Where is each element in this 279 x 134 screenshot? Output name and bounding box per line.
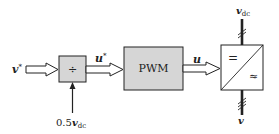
signal-arrow-u-star xyxy=(86,63,123,76)
vdc-bus-line xyxy=(238,19,246,45)
label-half-vdc: 0.5vdc xyxy=(56,118,86,130)
converter-dc-symbol: = xyxy=(228,52,238,64)
label-vdc: vdc xyxy=(236,6,250,18)
converter-ac-symbol: ≈ xyxy=(249,71,258,82)
half-vdc-arrow xyxy=(70,82,76,113)
label-u-star: u* xyxy=(95,53,107,64)
signal-arrow-u xyxy=(183,62,220,75)
label-v-star: v* xyxy=(12,64,22,75)
input-arrow-v-star xyxy=(26,63,58,76)
label-u: u xyxy=(193,54,201,65)
label-v: v xyxy=(238,116,244,126)
v-output-line xyxy=(238,90,246,115)
pwm-label: PWM xyxy=(124,47,183,90)
divider-symbol: ÷ xyxy=(59,56,86,82)
